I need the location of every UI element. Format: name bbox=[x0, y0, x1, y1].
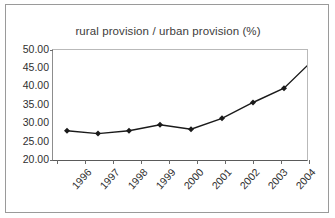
x-tick-mark bbox=[113, 160, 114, 164]
y-tick-label: 20.00 bbox=[5, 154, 49, 164]
x-tick-mark bbox=[197, 160, 198, 164]
x-tick-mark bbox=[169, 160, 170, 164]
y-tick-label: 45.00 bbox=[5, 62, 49, 72]
x-tick-mark bbox=[57, 160, 58, 164]
x-tick-mark bbox=[225, 160, 226, 164]
series-markers bbox=[64, 55, 307, 137]
x-tick-mark bbox=[281, 160, 282, 164]
data-series-line bbox=[53, 50, 307, 160]
data-point-marker bbox=[126, 128, 132, 134]
y-tick-label: 35.00 bbox=[5, 99, 49, 109]
data-point-marker bbox=[188, 126, 194, 132]
y-tick-label: 40.00 bbox=[5, 80, 49, 90]
data-point-marker bbox=[95, 131, 101, 137]
chart-screenshot: rural provision / urban provision (%) 50… bbox=[0, 0, 335, 218]
x-tick-mark bbox=[85, 160, 86, 164]
plot-area bbox=[52, 49, 308, 161]
x-axis-tick-marks bbox=[53, 160, 309, 165]
y-tick-label: 50.00 bbox=[5, 44, 49, 54]
y-tick-label: 25.00 bbox=[5, 136, 49, 146]
x-tick-mark bbox=[309, 160, 310, 164]
y-axis-tick-labels: 50.00 45.00 40.00 35.00 30.00 25.00 20.0… bbox=[3, 49, 49, 159]
x-axis-tick-labels: 1996 1997 1998 1999 2000 2001 2002 2003 … bbox=[53, 166, 309, 210]
chart-title: rural provision / urban provision (%) bbox=[6, 25, 330, 37]
y-tick-label: 30.00 bbox=[5, 117, 49, 127]
series-polyline bbox=[67, 58, 307, 134]
data-point-marker bbox=[64, 128, 70, 134]
data-point-marker bbox=[250, 100, 256, 106]
data-point-marker bbox=[219, 115, 225, 121]
x-tick-mark bbox=[253, 160, 254, 164]
x-tick-mark bbox=[141, 160, 142, 164]
data-point-marker bbox=[157, 122, 163, 128]
